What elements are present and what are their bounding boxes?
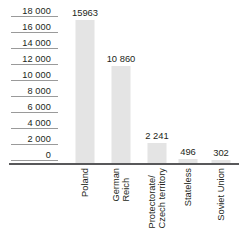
y-tick-label: 14 000 — [22, 39, 51, 48]
x-tick-stateless: Stateless — [170, 166, 206, 237]
y-tick: 14 000 — [0, 34, 60, 49]
x-tick-label: Stateless — [183, 168, 193, 206]
bar-value-label: 302 — [213, 148, 229, 157]
y-tick-label: 8 000 — [28, 87, 52, 96]
y-tick-label: 2 000 — [28, 135, 52, 144]
y-tick: 16 000 — [0, 18, 60, 33]
plot-area: 15963 10 860 2 241 496 302 — [60, 0, 239, 163]
gridline — [11, 80, 58, 81]
x-tick-label: Protectorate/ Czech territory — [147, 168, 167, 228]
bar[interactable] — [76, 20, 95, 163]
gridline — [11, 144, 58, 145]
gridline — [11, 128, 58, 129]
bar-group[interactable]: 15963 — [67, 0, 103, 163]
y-tick: 6 000 — [0, 98, 60, 113]
y-tick: 8 000 — [0, 82, 60, 97]
y-tick-label: 4 000 — [28, 119, 52, 128]
bar-value-label: 496 — [180, 147, 196, 156]
y-tick: 2 000 — [0, 130, 60, 145]
y-tick-label: 10 000 — [22, 71, 51, 80]
gridline — [11, 16, 58, 17]
gridline — [11, 160, 58, 161]
y-tick-label: 16 000 — [22, 23, 51, 32]
x-tick-german-reich: German Reich — [103, 166, 139, 237]
gridline — [11, 112, 58, 113]
bar-chart: 18 000 16 000 14 000 12 000 10 000 8 000… — [0, 0, 239, 237]
x-tick-soviet-union: Soviet Union — [203, 166, 239, 237]
x-tick-poland: Poland — [67, 166, 103, 237]
bar[interactable] — [148, 143, 167, 163]
x-tick-label: Poland — [80, 168, 90, 197]
y-tick: 18 000 — [0, 2, 60, 17]
bar-group[interactable]: 496 — [170, 0, 206, 163]
bar-value-label: 10 860 — [107, 54, 136, 63]
bar-group[interactable]: 10 860 — [103, 0, 139, 163]
y-tick-label: 6 000 — [28, 103, 52, 112]
bar-group[interactable]: 302 — [203, 0, 239, 163]
bar-value-label: 2 241 — [145, 131, 168, 140]
y-tick: 10 000 — [0, 66, 60, 81]
y-tick: 12 000 — [0, 50, 60, 65]
y-tick: 4 000 — [0, 114, 60, 129]
gridline — [11, 96, 58, 97]
bar[interactable] — [112, 66, 131, 163]
x-axis-line — [9, 163, 239, 165]
gridline — [11, 64, 58, 65]
y-axis: 18 000 16 000 14 000 12 000 10 000 8 000… — [0, 0, 60, 166]
y-tick-label: 12 000 — [22, 55, 51, 64]
gridline — [11, 48, 58, 49]
x-axis-labels: Poland German Reich Protectorate/ Czech … — [60, 166, 239, 237]
y-tick-label: 18 000 — [22, 7, 51, 16]
y-tick: 0 — [0, 146, 60, 161]
y-tick-label: 0 — [46, 151, 51, 160]
bar-value-label: 15963 — [72, 8, 98, 17]
x-tick-label: German Reich — [111, 168, 131, 202]
x-tick-label: Soviet Union — [216, 168, 226, 221]
gridline — [11, 32, 58, 33]
